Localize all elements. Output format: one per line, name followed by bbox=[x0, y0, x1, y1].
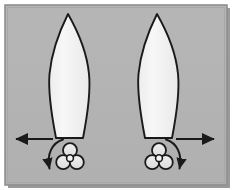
diagram-panel bbox=[5, 5, 227, 185]
diagram-canvas bbox=[0, 0, 233, 190]
right-propeller-hub bbox=[156, 155, 163, 162]
figure-root bbox=[0, 0, 233, 190]
left-propeller-hub bbox=[67, 155, 74, 162]
